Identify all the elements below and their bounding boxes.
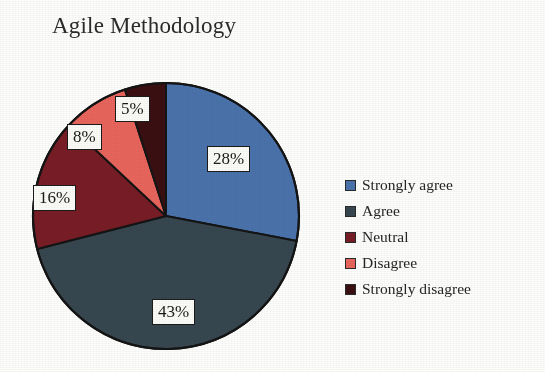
legend-swatch-icon (345, 284, 356, 295)
legend-swatch-icon (345, 258, 356, 269)
pie-chart-figure: Agile Methodology 28% 43% 16% 8% 5% Stro… (0, 0, 545, 372)
legend-item-label: Neutral (362, 228, 408, 246)
legend-item-label: Agree (362, 202, 400, 220)
legend-item-strongly-agree[interactable]: Strongly agree (345, 172, 471, 198)
data-label-neutral: 16% (33, 185, 76, 211)
legend-swatch-icon (345, 232, 356, 243)
legend-swatch-icon (345, 206, 356, 217)
legend-item-label: Strongly agree (362, 176, 453, 194)
legend-item-label: Strongly disagree (362, 280, 471, 298)
data-label-agree: 43% (152, 299, 195, 325)
data-label-disagree: 8% (67, 124, 102, 150)
legend-item-label: Disagree (362, 254, 417, 272)
legend-swatch-icon (345, 180, 356, 191)
data-label-strongly-agree: 28% (207, 146, 250, 172)
chart-legend: Strongly agreeAgreeNeutralDisagreeStrong… (345, 172, 471, 302)
legend-item-agree[interactable]: Agree (345, 198, 471, 224)
data-label-strongly-disagree: 5% (115, 96, 150, 122)
legend-item-neutral[interactable]: Neutral (345, 224, 471, 250)
legend-item-disagree[interactable]: Disagree (345, 250, 471, 276)
legend-item-strongly-disagree[interactable]: Strongly disagree (345, 276, 471, 302)
